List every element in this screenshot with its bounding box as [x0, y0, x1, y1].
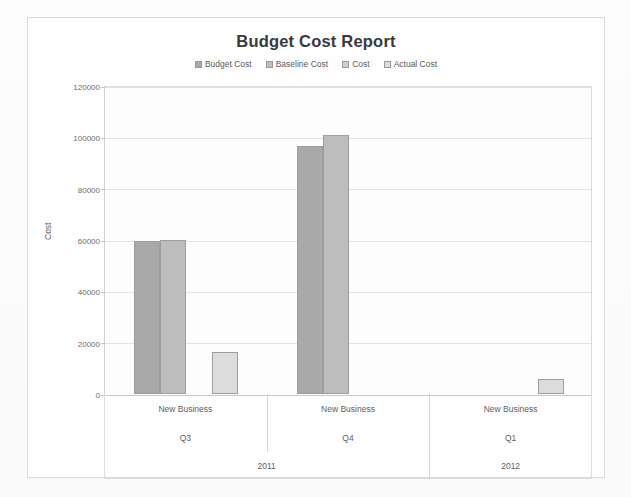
x-axis-row-year: 20112012 [104, 452, 592, 479]
bar [538, 379, 564, 394]
x-axis-group-quarter: Q1 [429, 424, 592, 452]
legend-label: Cost [352, 59, 369, 69]
x-axis-bottom-rule [104, 478, 592, 479]
x-axis-edge [104, 394, 105, 479]
legend-swatch-icon [342, 61, 349, 68]
bar [323, 135, 349, 394]
legend-swatch-icon [266, 61, 273, 68]
bar [134, 241, 160, 394]
chart-legend: Budget CostBaseline CostCostActual Cost [28, 59, 604, 69]
y-tick-label: 40000 [78, 288, 100, 297]
x-axis-group-year: 2011 [104, 452, 429, 479]
y-tick-label: 100000 [73, 134, 100, 143]
y-tick-mark [101, 292, 105, 293]
chart-page: Budget Cost Report Budget CostBaseline C… [0, 0, 631, 497]
y-tick-mark [101, 189, 105, 190]
x-axis-divider [267, 394, 268, 452]
y-tick-mark [101, 138, 105, 139]
legend-label: Baseline Cost [276, 59, 328, 69]
plot-area: 020000400006000080000100000120000 [104, 86, 592, 394]
chart-frame: Budget Cost Report Budget CostBaseline C… [27, 17, 605, 478]
x-axis-group-name: New Business [429, 394, 592, 424]
legend-item: Budget Cost [195, 59, 252, 69]
bar [160, 240, 186, 395]
y-axis-title: Cost [43, 223, 53, 240]
y-tick-label: 20000 [78, 339, 100, 348]
x-axis-edge [591, 394, 592, 479]
y-tick-label: 0 [96, 391, 100, 400]
legend-item: Cost [342, 59, 369, 69]
x-axis-divider [429, 394, 430, 479]
y-tick-mark [101, 343, 105, 344]
bar [212, 352, 238, 394]
y-tick-mark [101, 241, 105, 242]
bar [297, 146, 323, 394]
legend-item: Actual Cost [384, 59, 437, 69]
x-axis-row-quarter: Q3Q4Q1 [104, 424, 592, 452]
gridline [105, 87, 591, 88]
y-tick-label: 120000 [73, 83, 100, 92]
x-axis-group-quarter: Q3 [104, 424, 267, 452]
x-axis-table: New BusinessNew BusinessNew Business Q3Q… [104, 394, 592, 479]
legend-swatch-icon [195, 61, 202, 68]
x-axis-group-name: New Business [104, 394, 267, 424]
legend-swatch-icon [384, 61, 391, 68]
x-axis-group-quarter: Q4 [267, 424, 430, 452]
x-axis-group-name: New Business [267, 394, 430, 424]
y-tick-label: 60000 [78, 237, 100, 246]
y-tick-mark [101, 87, 105, 88]
x-axis-group-year: 2012 [429, 452, 592, 479]
legend-label: Budget Cost [205, 59, 252, 69]
legend-item: Baseline Cost [266, 59, 328, 69]
chart-title: Budget Cost Report [28, 32, 604, 51]
legend-label: Actual Cost [394, 59, 437, 69]
y-tick-label: 80000 [78, 185, 100, 194]
x-axis-row-name: New BusinessNew BusinessNew Business [104, 394, 592, 424]
